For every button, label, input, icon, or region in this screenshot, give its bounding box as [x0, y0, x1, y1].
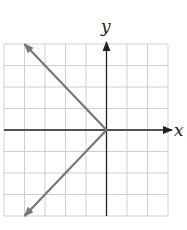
graph-canvas: x y: [0, 0, 187, 230]
y-axis-label: y: [100, 16, 111, 36]
x-axis-label: x: [174, 120, 184, 140]
axes: [4, 42, 172, 216]
